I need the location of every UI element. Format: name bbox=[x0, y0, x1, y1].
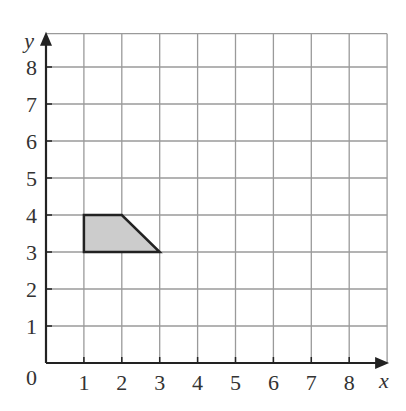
grid-lines bbox=[46, 34, 387, 363]
x-tick-label: 4 bbox=[192, 370, 203, 395]
axes bbox=[40, 32, 389, 369]
origin-label: 0 bbox=[26, 365, 37, 390]
coordinate-grid: 12345678123456780xy bbox=[0, 0, 406, 411]
y-tick-label: 2 bbox=[26, 277, 37, 302]
x-axis-label: x bbox=[378, 368, 389, 393]
y-tick-label: 4 bbox=[26, 203, 37, 228]
y-tick-label: 1 bbox=[26, 314, 37, 339]
x-tick-label: 2 bbox=[116, 370, 127, 395]
x-tick-label: 1 bbox=[78, 370, 89, 395]
y-axis-label: y bbox=[22, 28, 34, 53]
axis-tick-labels: 12345678123456780xy bbox=[22, 28, 389, 395]
x-tick-label: 7 bbox=[306, 370, 317, 395]
y-tick-label: 5 bbox=[26, 166, 37, 191]
x-tick-label: 5 bbox=[230, 370, 241, 395]
y-tick-label: 3 bbox=[26, 240, 37, 265]
x-tick-label: 8 bbox=[344, 370, 355, 395]
trapezium-polygon bbox=[84, 215, 160, 252]
x-tick-label: 3 bbox=[154, 370, 165, 395]
y-tick-label: 8 bbox=[26, 55, 37, 80]
y-tick-label: 6 bbox=[26, 129, 37, 154]
x-tick-label: 6 bbox=[268, 370, 279, 395]
y-tick-label: 7 bbox=[26, 92, 37, 117]
trapezium-shape bbox=[84, 215, 160, 252]
